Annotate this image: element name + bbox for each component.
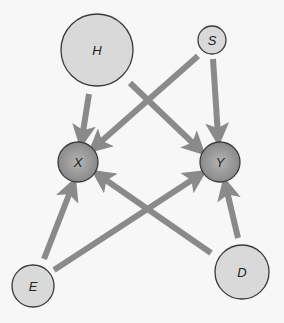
node-d-label: D	[237, 265, 246, 280]
node-e: E	[12, 265, 54, 307]
node-x: X	[58, 142, 98, 182]
node-y: Y	[200, 142, 240, 182]
edge-h-to-y-arrow	[130, 83, 198, 148]
edge-d-to-x-arrow	[100, 176, 211, 253]
edge-d-to-y-arrow	[226, 187, 238, 238]
edge-h-to-x-arrow	[82, 94, 89, 138]
node-h: H	[61, 14, 133, 86]
edge-e-to-x-arrow	[44, 187, 72, 259]
node-x-label: X	[73, 155, 84, 170]
nodes-layer: HSXYED	[12, 14, 269, 307]
node-s-label: S	[208, 33, 217, 48]
edge-e-to-y-arrow	[54, 176, 198, 270]
edge-s-to-y-arrow	[213, 59, 218, 136]
node-e-label: E	[29, 279, 38, 294]
node-y-label: Y	[216, 155, 226, 170]
causal-diagram: HSXYED	[0, 0, 284, 323]
node-s: S	[198, 26, 226, 54]
node-d: D	[215, 245, 269, 299]
node-h-label: H	[92, 43, 102, 58]
